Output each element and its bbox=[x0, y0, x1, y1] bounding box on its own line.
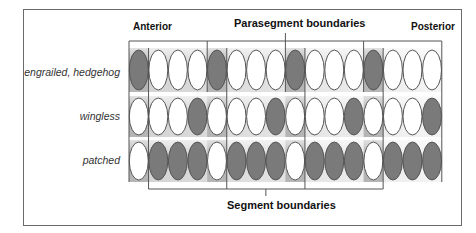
cell-expressing bbox=[423, 98, 442, 135]
cell-not-expressing bbox=[403, 98, 422, 135]
cell-not-expressing bbox=[266, 50, 285, 90]
cell-expressing bbox=[305, 142, 324, 180]
cell-expressing bbox=[423, 142, 442, 180]
cell-not-expressing bbox=[129, 98, 148, 135]
cell-expressing bbox=[344, 142, 363, 180]
cell-not-expressing bbox=[383, 98, 402, 135]
cell-expressing bbox=[129, 50, 148, 90]
cell-not-expressing bbox=[247, 98, 266, 135]
cell-expressing bbox=[188, 142, 207, 180]
cell-not-expressing bbox=[227, 50, 246, 90]
cell-expressing bbox=[403, 142, 422, 180]
cell-not-expressing bbox=[423, 50, 442, 90]
cell-not-expressing bbox=[208, 142, 227, 180]
cell-not-expressing bbox=[168, 50, 187, 90]
cell-expressing bbox=[247, 142, 266, 180]
cell-expressing bbox=[208, 50, 227, 90]
cell-not-expressing bbox=[403, 50, 422, 90]
expression-row bbox=[129, 96, 442, 137]
cell-not-expressing bbox=[325, 98, 344, 135]
cell-not-expressing bbox=[188, 50, 207, 90]
cell-expressing bbox=[227, 142, 246, 180]
cell-not-expressing bbox=[129, 142, 148, 180]
cell-expressing bbox=[266, 142, 285, 180]
cell-not-expressing bbox=[247, 50, 266, 90]
cell-not-expressing bbox=[208, 98, 227, 135]
cell-not-expressing bbox=[325, 50, 344, 90]
cell-expressing bbox=[325, 142, 344, 180]
cell-not-expressing bbox=[383, 50, 402, 90]
cell-expressing bbox=[383, 142, 402, 180]
cell-not-expressing bbox=[305, 50, 324, 90]
cell-not-expressing bbox=[364, 142, 383, 180]
cell-not-expressing bbox=[305, 98, 324, 135]
segmentation-diagram bbox=[0, 0, 476, 233]
cell-not-expressing bbox=[364, 98, 383, 135]
cell-expressing bbox=[344, 98, 363, 135]
cell-not-expressing bbox=[227, 98, 246, 135]
cell-not-expressing bbox=[168, 98, 187, 135]
cell-not-expressing bbox=[286, 142, 305, 180]
cell-not-expressing bbox=[344, 50, 363, 90]
cell-expressing bbox=[149, 142, 168, 180]
cell-expressing bbox=[286, 50, 305, 90]
cell-expressing bbox=[266, 98, 285, 135]
cell-expressing bbox=[188, 98, 207, 135]
cell-not-expressing bbox=[149, 98, 168, 135]
cell-not-expressing bbox=[149, 50, 168, 90]
expression-row bbox=[129, 140, 442, 182]
cell-not-expressing bbox=[286, 98, 305, 135]
cell-expressing bbox=[168, 142, 187, 180]
cell-expressing bbox=[364, 50, 383, 90]
